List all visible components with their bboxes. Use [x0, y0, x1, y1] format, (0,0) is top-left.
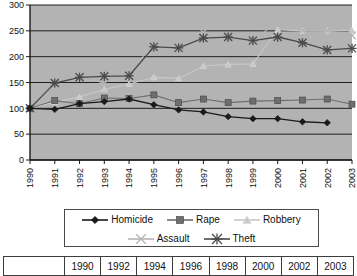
- year-table-blank-cell: [4, 257, 65, 276]
- x-tick-label-1995: 1995: [149, 168, 159, 188]
- marker-square: [324, 96, 330, 102]
- y-tick-label-300: 300: [9, 0, 24, 10]
- legend-glyph-diamond: [92, 216, 99, 223]
- chart-screenshot: 3002502001501005001990199119921993199419…: [0, 0, 357, 276]
- data-point-rape-7: [200, 96, 206, 102]
- year-table-cell-1998: 1998: [209, 257, 245, 276]
- x-tick-label-1991: 1991: [50, 168, 60, 188]
- data-point-theft-6: [174, 43, 183, 52]
- year-table-cell-1992: 1992: [101, 257, 137, 276]
- legend-row-primary: HomicideRapeRobbery: [65, 210, 318, 229]
- data-point-theft-11: [298, 38, 307, 47]
- data-point-rape-9: [250, 98, 256, 104]
- marker-square: [250, 98, 256, 104]
- x-tick-label-2000: 2000: [273, 168, 283, 188]
- data-point-theft-10: [273, 32, 282, 41]
- year-table-strip: 19901992199419961998200020022003: [3, 256, 354, 274]
- data-point-theft-5: [149, 42, 158, 51]
- data-point-theft-8: [224, 32, 233, 41]
- x-tick-label-2003: 2003: [347, 168, 357, 188]
- legend-marker-square: [167, 214, 193, 226]
- data-point-theft-13: [347, 44, 356, 53]
- x-tick-label-1990: 1990: [25, 168, 35, 188]
- marker-square: [225, 100, 231, 106]
- line-chart: 3002502001501005001990199119921993199419…: [0, 0, 357, 195]
- year-table-cell-2002: 2002: [281, 257, 317, 276]
- year-table-cell-1994: 1994: [137, 257, 173, 276]
- year-table: 19901992199419961998200020022003: [3, 256, 354, 276]
- x-tick-label-1998: 1998: [224, 168, 234, 188]
- x-tick-label-1994: 1994: [124, 168, 134, 188]
- data-point-rape-1: [52, 98, 58, 104]
- legend-marker-star: [204, 233, 230, 245]
- y-tick-label-100: 100: [9, 104, 24, 114]
- x-tick-label-1992: 1992: [75, 168, 85, 188]
- y-tick-label-50: 50: [14, 129, 24, 139]
- legend-item-robbery[interactable]: Robbery: [234, 214, 301, 226]
- y-tick-label-0: 0: [19, 155, 24, 165]
- x-tick-label-1997: 1997: [199, 168, 209, 188]
- marker-square: [177, 216, 184, 223]
- data-point-rape-6: [176, 100, 182, 106]
- marker-square: [275, 98, 281, 104]
- marker-square: [200, 96, 206, 102]
- year-table-cell-1996: 1996: [173, 257, 209, 276]
- legend-label-rape: Rape: [196, 214, 220, 225]
- legend-glyph-star: [211, 233, 222, 244]
- year-table-cell-2000: 2000: [245, 257, 281, 276]
- marker-square: [151, 92, 157, 98]
- data-point-rape-10: [275, 98, 281, 104]
- x-tick-label-1993: 1993: [100, 168, 110, 188]
- data-point-theft-12: [323, 45, 332, 54]
- data-point-theft-9: [248, 36, 257, 45]
- data-point-theft-1: [50, 78, 59, 87]
- data-point-rape-5: [151, 92, 157, 98]
- marker-square: [349, 101, 355, 107]
- data-point-rape-11: [299, 97, 305, 103]
- legend-label-theft: Theft: [233, 233, 256, 244]
- y-tick-label-250: 250: [9, 26, 24, 36]
- data-point-theft-4: [124, 71, 133, 80]
- data-point-rape-12: [324, 96, 330, 102]
- marker-diamond: [92, 216, 99, 223]
- data-point-theft-2: [75, 73, 84, 82]
- data-point-rape-13: [349, 101, 355, 107]
- legend-marker-x: [128, 233, 154, 245]
- x-tick-label-2002: 2002: [323, 168, 333, 188]
- data-point-theft-3: [100, 72, 109, 81]
- y-tick-label-200: 200: [9, 52, 24, 62]
- marker-square: [52, 98, 58, 104]
- x-tick-label-1999: 1999: [248, 168, 258, 188]
- chart-canvas: 3002502001501005001990199119921993199419…: [0, 0, 357, 195]
- x-tick-label-1996: 1996: [174, 168, 184, 188]
- year-table-cell-2003: 2003: [317, 257, 353, 276]
- legend-row-secondary: AssaultTheft: [65, 229, 318, 248]
- legend-item-assault[interactable]: Assault: [128, 233, 190, 245]
- legend-item-rape[interactable]: Rape: [167, 214, 220, 226]
- x-tick-label-2001: 2001: [298, 168, 308, 188]
- legend-marker-diamond: [82, 214, 108, 226]
- year-table-row: 19901992199419961998200020022003: [4, 257, 354, 276]
- legend-marker-triangle: [234, 214, 260, 226]
- data-point-theft-7: [199, 33, 208, 42]
- data-point-rape-8: [225, 100, 231, 106]
- year-table-cell-1990: 1990: [65, 257, 101, 276]
- legend-item-theft[interactable]: Theft: [204, 233, 256, 245]
- legend-label-assault: Assault: [157, 233, 190, 244]
- marker-square: [176, 100, 182, 106]
- legend-glyph-square: [177, 216, 184, 223]
- legend-label-robbery: Robbery: [263, 214, 301, 225]
- y-tick-label-150: 150: [9, 78, 24, 88]
- chart-legend: HomicideRapeRobbery AssaultTheft: [64, 209, 319, 247]
- marker-square: [299, 97, 305, 103]
- legend-label-homicide: Homicide: [111, 214, 153, 225]
- legend-item-homicide[interactable]: Homicide: [82, 214, 153, 226]
